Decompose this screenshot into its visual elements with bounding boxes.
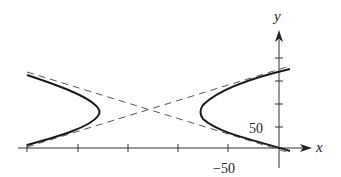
x-axis-label: x — [315, 139, 323, 155]
x-tick-label-neg50: −50 — [213, 161, 235, 176]
y-axis-label: y — [272, 8, 281, 24]
hyperbola — [27, 69, 290, 151]
y-tick-label-50: 50 — [249, 121, 263, 136]
asymptote-descending — [27, 72, 290, 153]
hyperbola-chart: y x 50 −50 — [0, 0, 341, 177]
hyperbola-left-branch — [27, 75, 100, 145]
